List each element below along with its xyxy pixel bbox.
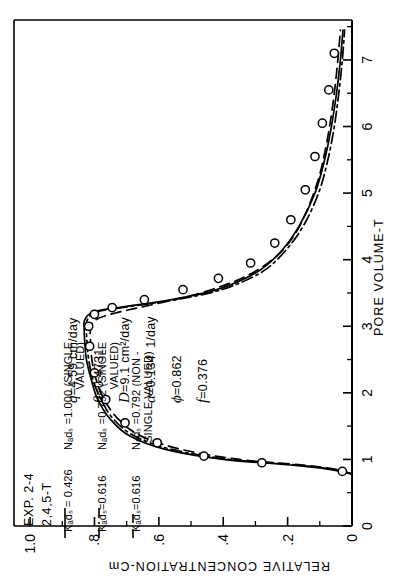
data-point-marker xyxy=(330,49,338,57)
data-point-marker xyxy=(338,467,346,475)
parameter-symbol: q xyxy=(64,395,80,403)
parameter-value: =0.134 1/day xyxy=(144,316,158,395)
series-line-solid xyxy=(84,30,352,474)
series-line-dashdot xyxy=(86,30,352,474)
parameter-row: θ=0.4731 xyxy=(90,348,107,403)
data-point-marker xyxy=(258,459,266,467)
rotated-figure-wrapper: 012345670.2.4.6.81.0 PORE VOLUME-T RELAT… xyxy=(0,0,394,586)
data-point-marker xyxy=(140,296,148,304)
data-point-marker xyxy=(325,86,333,94)
parameter-symbol: f xyxy=(194,399,210,403)
parameter-symbol: θ xyxy=(90,395,106,403)
parameter-symbol: α xyxy=(142,395,158,403)
parameter-value: =9.1 cm²/day xyxy=(118,317,132,392)
x-tick-label: 5 xyxy=(359,189,375,197)
data-point-marker xyxy=(108,304,116,312)
parameter-value: =0.4731 xyxy=(92,348,106,395)
data-point-marker xyxy=(247,259,255,267)
data-point-marker xyxy=(287,216,295,224)
parameter-value: =4.59 cm/day xyxy=(66,318,80,396)
data-point-marker xyxy=(271,239,279,247)
parameter-row: ϕ=0.862 xyxy=(168,355,185,403)
y-tick-label: .4 xyxy=(215,534,231,546)
x-tick-label: 6 xyxy=(359,122,375,130)
y-tick-label: 0 xyxy=(344,534,360,542)
y-axis-title: RELATIVE CONCENTRATION-Cm xyxy=(108,559,330,573)
parameter-row: α=0.134 1/day xyxy=(142,316,159,403)
data-point-marker xyxy=(318,119,326,127)
parameter-value: =0.376 xyxy=(196,359,210,399)
data-point-marker xyxy=(200,452,208,460)
chart-svg: 012345670.2.4.6.81.0 xyxy=(0,0,394,586)
parameter-symbol: ϕ xyxy=(168,395,184,403)
parameter-row: f=0.376 xyxy=(194,359,211,403)
data-point-marker xyxy=(301,186,309,194)
data-point-marker xyxy=(311,152,319,160)
data-point-marker xyxy=(85,322,93,330)
x-tick-label: 0 xyxy=(359,522,375,530)
y-tick-label: .2 xyxy=(280,534,296,546)
experiment-label: EXP. 2-4 xyxy=(22,473,36,526)
data-point-marker xyxy=(121,419,129,427)
figure-canvas: 012345670.2.4.6.81.0 PORE VOLUME-T RELAT… xyxy=(0,0,394,586)
y-tick-label: 1.0 xyxy=(22,534,38,554)
parameter-row: q=4.59 cm/day xyxy=(64,318,81,404)
data-point-marker xyxy=(179,286,187,294)
data-point-marker xyxy=(90,310,98,318)
x-tick-label: 2 xyxy=(359,389,375,397)
compound-label: 2,4,5-T xyxy=(40,482,54,526)
parameter-symbol: D xyxy=(116,392,132,403)
parameter-value: =0.862 xyxy=(170,355,184,395)
plot-area: 012345670.2.4.6.81.0 PORE VOLUME-T RELAT… xyxy=(0,0,394,586)
parameter-row: D=9.1 cm²/day xyxy=(116,317,133,403)
x-tick-label: 7 xyxy=(359,56,375,64)
x-tick-label: 1 xyxy=(359,455,375,463)
data-point-marker xyxy=(214,274,222,282)
x-axis-title: PORE VOLUME-T xyxy=(372,218,386,336)
